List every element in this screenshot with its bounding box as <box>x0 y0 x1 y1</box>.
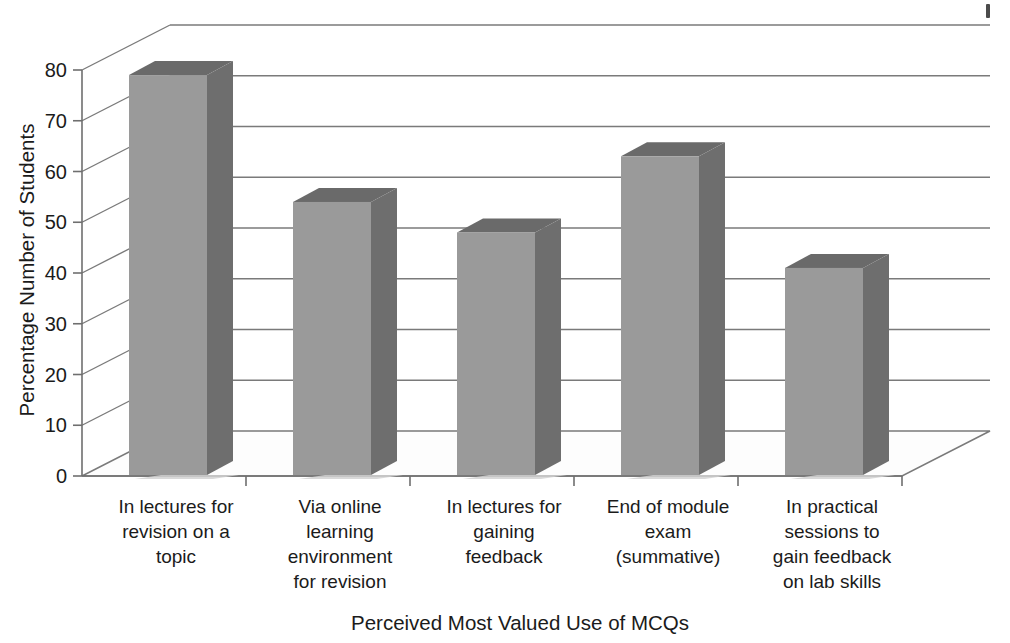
y-tick-label: 20 <box>45 364 67 386</box>
bar-front-face <box>457 232 535 475</box>
y-tick-label: 70 <box>45 110 67 132</box>
bar-column <box>129 61 239 479</box>
y-tick-label: 30 <box>45 313 67 335</box>
y-tick-label: 0 <box>56 465 67 487</box>
bar-side-face <box>863 254 889 475</box>
bar-chart: 01020304050607080 Percentage Number of S… <box>0 0 1010 643</box>
y-tick-label: 40 <box>45 262 67 284</box>
bar-front-face <box>129 75 207 475</box>
bar-front-face <box>785 268 863 475</box>
x-category-label: Via online learning environment for revi… <box>245 494 435 594</box>
x-category-label: In lectures for revision on a topic <box>81 494 271 569</box>
x-category-label: End of module exam (summative) <box>573 494 763 569</box>
x-category-label: In lectures for gaining feedback <box>409 494 599 569</box>
x-axis-title: Perceived Most Valued Use of MCQs <box>351 611 689 634</box>
bar-column <box>293 188 403 479</box>
bar-front-face <box>293 202 371 475</box>
y-tick-label: 60 <box>45 161 67 183</box>
y-tick-label: 10 <box>45 414 67 436</box>
bar-side-face <box>207 61 233 475</box>
bar-front-face <box>621 156 699 475</box>
bar-side-face <box>699 142 725 475</box>
bar-side-face <box>371 188 397 475</box>
x-category-label: In practical sessions to gain feedback o… <box>737 494 927 594</box>
y-axis-title: Percentage Number of Students <box>15 124 38 417</box>
bar-side-face <box>535 218 561 475</box>
y-tick-label: 80 <box>45 59 67 81</box>
bar-column <box>621 142 731 479</box>
bars-group <box>129 61 895 479</box>
scan-artifact-mark <box>986 4 990 18</box>
bar-column <box>457 218 567 479</box>
bar-column <box>785 254 895 479</box>
y-tick-label: 50 <box>45 211 67 233</box>
y-tick-labels-group: 01020304050607080 <box>45 59 67 487</box>
